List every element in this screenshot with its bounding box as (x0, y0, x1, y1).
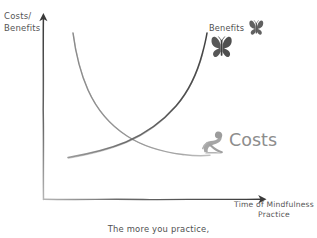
y-axis-label-line1: Costs/ (4, 11, 31, 21)
benefits-curve (68, 33, 207, 158)
y-axis-label: Costs/Benefits (4, 11, 40, 34)
chart-caption: The more you practice, (0, 224, 317, 234)
benefits-series-label: Benefits (209, 23, 244, 33)
costs-series-label: Costs (229, 130, 277, 150)
x-axis-label: Time of MindfulnessPractice (233, 200, 315, 220)
y-axis-label-line2: Benefits (4, 23, 40, 33)
x-axis-label-line2: Practice (258, 210, 290, 219)
y-axis (39, 13, 47, 200)
butterfly-icon (249, 21, 263, 35)
x-axis-label-line1: Time of Mindfulness (234, 200, 314, 209)
butterfly-icon (211, 37, 231, 57)
costs-curve (73, 33, 210, 156)
mindfulness-costs-benefits-chart: Costs/Benefits Time of MindfulnessPracti… (0, 0, 317, 238)
caterpillar-icon (203, 131, 223, 153)
